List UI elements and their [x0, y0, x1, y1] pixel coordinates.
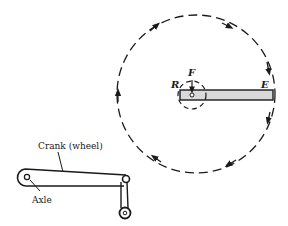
bottom-wheel-hub-icon [123, 211, 127, 215]
arrow-icon [268, 112, 270, 121]
arrow-icon [150, 25, 157, 31]
crank-pivot-icon [123, 176, 130, 183]
label-crank: Crank (wheel) [38, 141, 103, 151]
label-effort: E [260, 79, 269, 90]
label-resistance: R [170, 79, 179, 90]
arrow-icon [222, 23, 230, 27]
crank-leader-line [58, 152, 63, 172]
diagram-canvas: F R E Crank (wheel) Axle [0, 0, 288, 226]
axle-icon [24, 174, 29, 179]
pivot-icon [190, 93, 194, 97]
label-axle: Axle [31, 195, 52, 205]
crank-illustration [17, 152, 130, 219]
label-fulcrum: F [187, 67, 196, 78]
arrow-icon [154, 157, 161, 162]
